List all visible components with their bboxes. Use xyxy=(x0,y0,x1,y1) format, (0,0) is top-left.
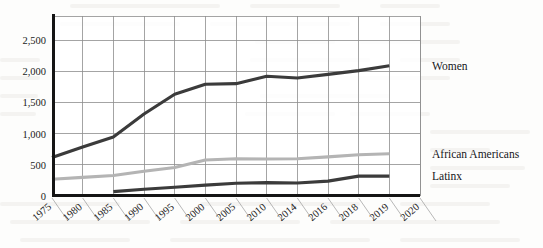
x-tick-label: 2020 xyxy=(398,201,421,223)
y-tick-label: 2,000 xyxy=(22,66,46,77)
x-tick-label: 2010 xyxy=(245,201,268,223)
x-tick-label-group: 1990 xyxy=(122,201,145,223)
y-axis-tick-labels: 05001,0001,5002,0002,500 xyxy=(22,35,46,201)
x-tick-label: 2000 xyxy=(183,201,206,223)
x-tick-label-group: 1985 xyxy=(91,201,114,223)
y-tick-label: 1,500 xyxy=(22,97,46,108)
x-tick-label: 1995 xyxy=(153,201,176,223)
x-axis-tick-labels: 1975198019851990199520002005201020142016… xyxy=(30,198,436,223)
series-label-african-americans: African Americans xyxy=(432,148,520,160)
x-tick-leader xyxy=(420,198,436,221)
x-tick-label: 2018 xyxy=(337,201,360,223)
x-tick-label-group: 2005 xyxy=(214,201,237,223)
x-tick-label-group: 1975 xyxy=(30,201,53,223)
x-tick-label: 2005 xyxy=(214,201,237,223)
x-tick-label-group: 1980 xyxy=(61,201,84,223)
x-tick-label: 2016 xyxy=(306,201,329,223)
y-tick-label: 1,000 xyxy=(22,129,46,140)
x-tick-label-group: 2020 xyxy=(398,201,421,223)
x-tick-label: 1975 xyxy=(30,201,53,223)
x-tick-label-group: 2019 xyxy=(367,201,390,223)
y-tick-label: 0 xyxy=(41,191,46,202)
x-tick-label-group: 1995 xyxy=(153,201,176,223)
x-tick-label-group: 2000 xyxy=(183,201,206,223)
x-tick-label: 1985 xyxy=(91,201,114,223)
figure-container: 05001,0001,5002,0002,500 197519801985199… xyxy=(0,0,543,248)
x-tick-label-group: 2010 xyxy=(245,201,268,223)
x-tick-label: 2019 xyxy=(367,201,390,223)
series-label-women: Women xyxy=(432,60,468,72)
y-tick-label: 2,500 xyxy=(22,35,46,46)
y-tick-label: 500 xyxy=(30,160,46,171)
x-tick-label-group: 2014 xyxy=(275,201,299,223)
line-chart: 05001,0001,5002,0002,500 197519801985199… xyxy=(0,0,543,248)
series-label-latinx: Latinx xyxy=(432,170,462,182)
x-tick-label-group: 2016 xyxy=(306,201,329,223)
x-tick-label: 2014 xyxy=(275,201,299,223)
x-tick-label: 1990 xyxy=(122,201,145,223)
series-labels: WomenAfrican AmericansLatinx xyxy=(432,60,520,182)
x-tick-label: 1980 xyxy=(61,201,84,223)
x-tick-label-group: 2018 xyxy=(337,201,360,223)
